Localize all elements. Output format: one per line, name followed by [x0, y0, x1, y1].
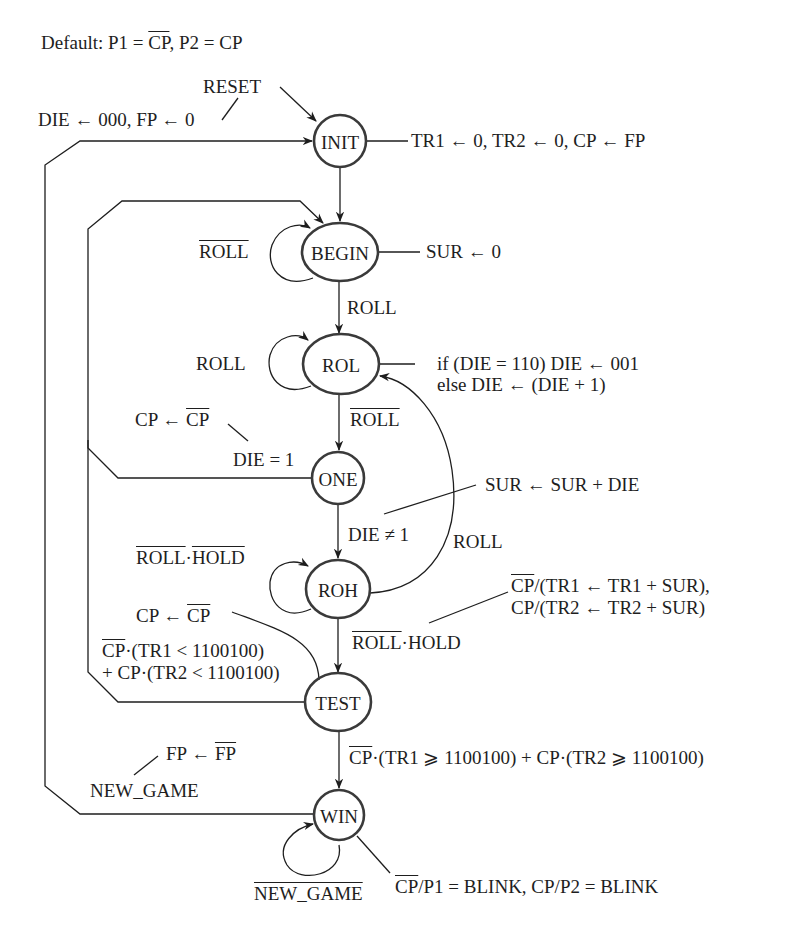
test-to-win-cp-bar: CP [349, 747, 372, 768]
rol-action-line2: else DIE ← (DIE + 1) [437, 374, 605, 395]
roh-action-cp-bar: CP [511, 575, 534, 596]
reset-action-leader [222, 98, 238, 120]
begin-to-rol-label: ROLL [347, 297, 397, 318]
test-to-begin-line1-rest: ·(TR1 < 1100100) [125, 640, 264, 661]
begin-action: SUR ← 0 [426, 241, 501, 262]
reset-action: DIE ← 000, FP ← 0 [38, 109, 195, 130]
roh-action-line1-rest: /(TR1 ← TR1 + SUR), [534, 575, 710, 596]
test-to-win-rest: ·(TR1 ⩾ 1100100) + CP·(TR2 ⩾ 1100100) [372, 747, 704, 768]
win-to-init-action-prefix: FP ← [166, 743, 215, 764]
test-to-win-label: CP·(TR1 ⩾ 1100100) + CP·(TR2 ⩾ 1100100) [349, 747, 704, 768]
win-to-init-label: NEW_GAME [90, 780, 199, 801]
roh-action-line1: CP/(TR1 ← TR1 + SUR), [511, 575, 710, 596]
one-to-begin-label: DIE = 1 [233, 449, 294, 470]
roh-to-test-roll-bar: ROLL [352, 632, 402, 653]
one-action-bar: CP [186, 409, 209, 430]
one-action-prefix: CP ← [135, 409, 186, 430]
win-self-loop-label: NEW_GAME [254, 883, 363, 904]
one-to-roh-action: SUR ← SUR + DIE [485, 474, 639, 495]
test-to-begin-line1: CP·(TR1 < 1100100) [102, 640, 264, 661]
roh-self-loop-roll: ROLL [136, 547, 186, 568]
rol-action-line1: if (DIE = 110) DIE ← 001 [437, 353, 639, 374]
test-action-bar: CP [187, 605, 210, 626]
win-to-init-action: FP ← FP [166, 743, 236, 764]
begin-self-loop [270, 225, 313, 281]
default-prefix: Default: P1 = [41, 32, 148, 53]
roh-action-line2: CP/(TR2 ← TR2 + SUR) [511, 597, 705, 618]
win-self-loop [283, 824, 339, 875]
test-action-prefix: CP ← [136, 605, 187, 626]
default-cp-bar: CP [148, 32, 169, 53]
win-action-cp-bar: CP [395, 876, 418, 897]
win-to-init-action-bar: FP [215, 743, 236, 764]
default-suffix: , P2 = CP [169, 32, 242, 53]
test-action: CP ← CP [136, 605, 210, 626]
roh-to-test-label: ROLL·HOLD [352, 632, 461, 653]
reset-label: RESET [203, 76, 261, 97]
one-to-roh-label: DIE ≠ 1 [348, 524, 409, 545]
rol-to-one-label: ROLL [350, 409, 400, 430]
default-outputs-note: Default: P1 = CP, P2 = CP [41, 32, 242, 53]
test-to-begin-cp-bar: CP [102, 640, 125, 661]
test-to-begin-line2: + CP·(TR2 < 1100100) [102, 662, 279, 683]
state-test-label: TEST [315, 693, 360, 714]
rol-self-loop-label: ROLL [196, 353, 246, 374]
win-action-rest: /P1 = BLINK, CP/P2 = BLINK [418, 876, 658, 897]
reset-arrow [280, 87, 316, 121]
state-begin-label: BEGIN [311, 243, 369, 264]
state-one-label: ONE [318, 469, 357, 490]
roh-self-loop-hold: HOLD [192, 547, 245, 568]
roh-to-rol-label: ROLL [453, 531, 503, 552]
one-action: CP ← CP [135, 409, 209, 430]
state-roh-label: ROH [318, 580, 358, 601]
roh-self-loop-label: ROLL·HOLD [136, 547, 245, 568]
state-win-label: WIN [320, 806, 358, 827]
state-rol-label: ROL [322, 355, 360, 376]
init-action: TR1 ← 0, TR2 ← 0, CP ← FP [411, 130, 645, 151]
rol-self-loop [269, 336, 311, 389]
win-action: CP/P1 = BLINK, CP/P2 = BLINK [395, 876, 658, 897]
roh-to-test-hold: ·HOLD [402, 632, 461, 653]
begin-self-loop-label: ROLL [199, 241, 249, 262]
state-init-label: INIT [321, 132, 359, 153]
